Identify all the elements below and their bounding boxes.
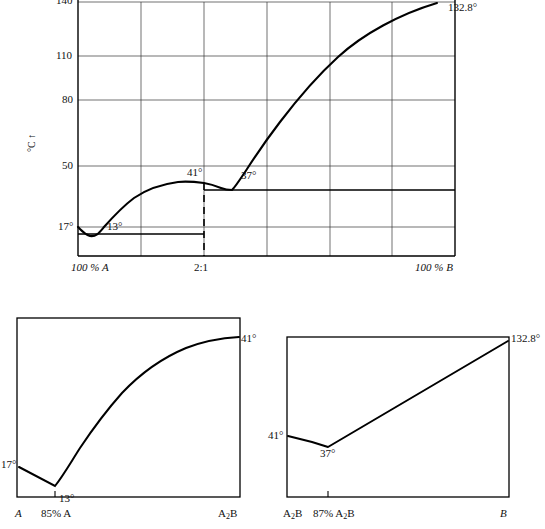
inset-left-pct-value: 85%	[41, 507, 63, 519]
inset-left-x-tick-a: A	[15, 508, 22, 519]
y-tick-110: 110	[56, 50, 72, 61]
inset-left-annotation-17deg: 17°	[1, 459, 16, 470]
y-tick-80: 80	[62, 94, 73, 105]
inset-right-x-tick-b: B	[500, 508, 507, 519]
x-tick-100-percent-b: 100 % B	[415, 262, 453, 273]
main-chart-plot	[0, 0, 545, 290]
inset-left-annotation-41deg: 41°	[241, 333, 256, 344]
inset-left-annotation-13deg: 13°	[59, 493, 74, 504]
liquidus-curve	[78, 3, 437, 236]
inset-right-plot	[270, 310, 545, 529]
inset-left-pct-symbol: A	[63, 507, 71, 519]
inset-left-x-tick-a2b: A2B	[218, 508, 237, 521]
main-chart-grid	[78, 2, 455, 256]
y-tick-140: 140	[56, 0, 73, 6]
inset-left-x-tick-85pct-a: 85% A	[41, 508, 71, 519]
annotation-13deg: 13°	[107, 221, 122, 232]
phase-diagram-figure: °C ↑ 140 110 80 50 17° 13° 41° 37° 132.8…	[0, 0, 545, 529]
inset-left-a2b-b: B	[230, 507, 237, 519]
annotation-41deg: 41°	[187, 167, 202, 178]
inset-right-annotation-41deg: 41°	[268, 430, 283, 441]
main-chart-axes	[78, 0, 455, 256]
inset-right-annotation-132-8deg: 132.8°	[511, 333, 540, 344]
inset-right-a2b-a: A	[283, 507, 291, 519]
y-axis-title: °C ↑	[26, 134, 37, 152]
inset-left-liquidus-curve	[19, 337, 239, 486]
inset-right-liquidus-curve	[288, 341, 508, 447]
inset-right-annotation-37deg: 37°	[320, 448, 335, 459]
inset-right-a2b-b: B	[295, 507, 302, 519]
annotation-37deg: 37°	[241, 170, 256, 181]
y-tick-50: 50	[62, 160, 73, 171]
y-tick-17: 17°	[58, 221, 73, 232]
inset-left-frame	[17, 318, 240, 497]
annotation-132-8deg: 132.8°	[448, 2, 477, 13]
inset-right-x-tick-a2b: A2B	[283, 508, 302, 521]
inset-left-a2b-a: A	[218, 507, 226, 519]
x-tick-2to1: 2:1	[194, 262, 208, 273]
inset-right-x-tick-87pct-a2b: 87% A2B	[313, 508, 355, 521]
inset-right-pct-b: B	[347, 507, 354, 519]
x-tick-100-percent-a: 100 % A	[71, 262, 109, 273]
inset-right-pct-value: 87%	[313, 507, 335, 519]
inset-left-plot	[0, 310, 270, 529]
